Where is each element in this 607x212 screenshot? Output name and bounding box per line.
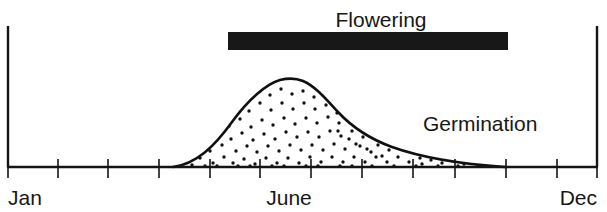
axis-label-dec: Dec: [560, 186, 597, 209]
phenology-chart: Flowering Germination Jan June Dec: [0, 0, 607, 212]
axis-label-jan: Jan: [8, 186, 42, 209]
phenology-figure: Flowering Germination Jan June Dec: [0, 0, 607, 212]
flowering-bar: [228, 32, 508, 50]
flowering-label: Flowering: [335, 8, 426, 31]
germination-label: Germination: [423, 112, 537, 135]
axis-label-june: June: [266, 186, 312, 209]
